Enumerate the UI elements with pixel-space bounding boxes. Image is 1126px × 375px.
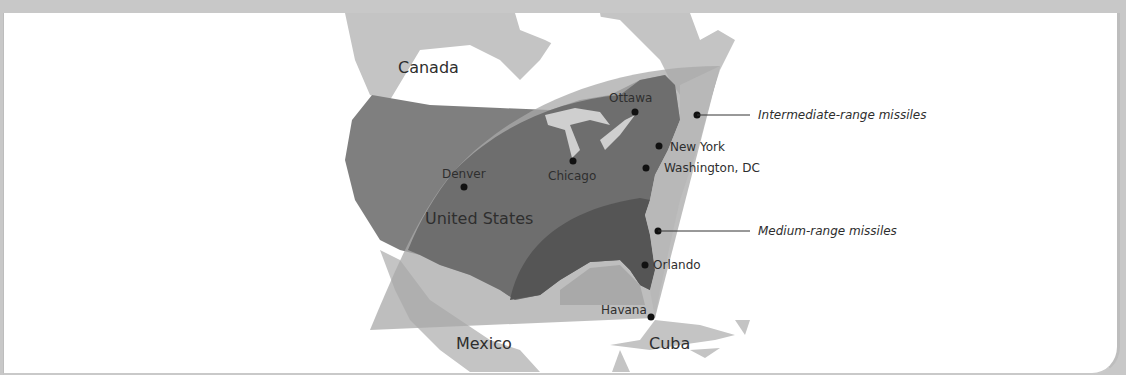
city-label-washington-dc: Washington, DC (664, 161, 760, 175)
city-dot-ottawa (632, 109, 639, 116)
legend-label-medium-range: Medium-range missiles (758, 224, 897, 238)
city-dot-denver (461, 184, 468, 191)
city-label-denver: Denver (442, 167, 486, 181)
city-label-new-york: New York (670, 140, 725, 154)
city-label-ottawa: Ottawa (609, 91, 652, 105)
city-dot-washington-dc (643, 165, 650, 172)
city-label-orlando: Orlando (653, 258, 701, 272)
city-label-havana: Havana (601, 303, 647, 317)
legend-label-intermediate-range: Intermediate-range missiles (758, 108, 927, 122)
city-dot-new-york (656, 143, 663, 150)
city-label-chicago: Chicago (548, 169, 596, 183)
city-dot-havana (648, 314, 655, 321)
city-markers (0, 0, 1126, 375)
city-dot-chicago (570, 158, 577, 165)
city-dot-orlando (642, 262, 649, 269)
